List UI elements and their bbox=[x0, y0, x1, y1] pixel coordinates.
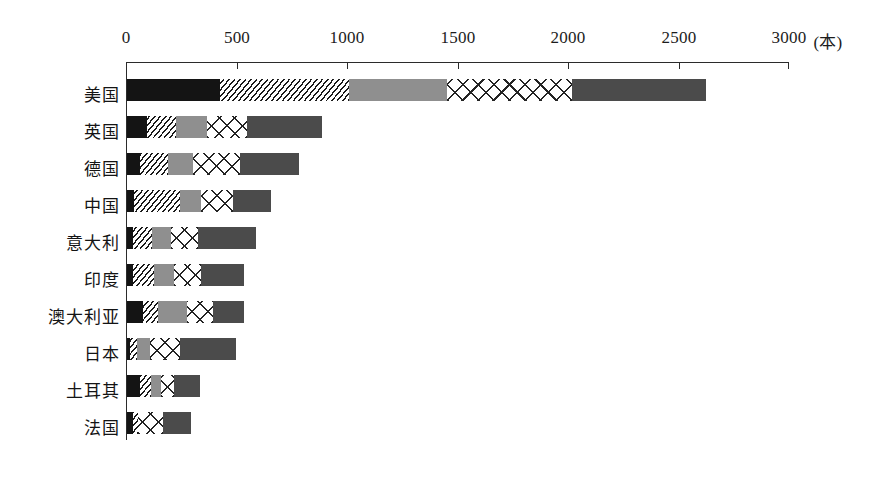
y-category-label-1: 英国 bbox=[2, 118, 120, 143]
y-category-label-9: 法国 bbox=[2, 414, 120, 439]
bar-segment bbox=[198, 227, 256, 249]
bar-segment bbox=[143, 301, 159, 323]
bar-segment bbox=[447, 79, 572, 101]
y-category-label-3: 中国 bbox=[2, 192, 120, 217]
bar-segment bbox=[201, 190, 233, 212]
y-category-label-5: 印度 bbox=[2, 266, 120, 291]
bar-segment bbox=[127, 190, 134, 212]
bar-row bbox=[127, 153, 299, 175]
bar-segment bbox=[127, 79, 220, 101]
bar-segment bbox=[207, 116, 246, 138]
x-tick-label-3000: 3000 bbox=[772, 28, 807, 48]
bar-segment bbox=[220, 79, 349, 101]
bar-segment bbox=[127, 301, 143, 323]
x-tick-label-1000: 1000 bbox=[330, 28, 365, 48]
bar-segment bbox=[572, 79, 707, 101]
bar-segment bbox=[176, 116, 207, 138]
stacked-bar-chart: 0 500 1000 1500 2000 2500 3000 (本) 美国 英国… bbox=[0, 0, 874, 480]
bar-segment bbox=[137, 338, 150, 360]
bar-segment bbox=[154, 264, 174, 286]
x-tick-label-0: 0 bbox=[122, 28, 131, 48]
bar-segment bbox=[127, 153, 140, 175]
bar-segment bbox=[171, 227, 198, 249]
bar-segment bbox=[151, 375, 160, 397]
bar-segment bbox=[187, 301, 213, 323]
x-tick-label-1500: 1500 bbox=[441, 28, 476, 48]
y-category-label-6: 澳大利亚 bbox=[2, 303, 120, 328]
bar-segment bbox=[247, 116, 322, 138]
x-axis-unit-label: (本) bbox=[813, 28, 842, 53]
bar-segment bbox=[161, 375, 174, 397]
bar-segment bbox=[349, 79, 447, 101]
bar-segment bbox=[213, 301, 243, 323]
bar-segment bbox=[138, 412, 163, 434]
y-category-label-0: 美国 bbox=[2, 81, 120, 106]
bar-row bbox=[127, 338, 236, 360]
bar-segment bbox=[240, 153, 298, 175]
y-category-label-4: 意大利 bbox=[2, 229, 120, 254]
y-category-label-7: 日本 bbox=[2, 340, 120, 365]
x-tick-label-500: 500 bbox=[224, 28, 250, 48]
bar-segment bbox=[233, 190, 270, 212]
bar-row bbox=[127, 116, 322, 138]
bar-segment bbox=[168, 153, 193, 175]
bar-segment bbox=[140, 375, 151, 397]
bar-row bbox=[127, 79, 706, 101]
bar-segment bbox=[150, 338, 180, 360]
bar-row bbox=[127, 227, 256, 249]
bar-row bbox=[127, 264, 244, 286]
bar-segment bbox=[193, 153, 241, 175]
bar-segment bbox=[152, 227, 171, 249]
bar-segment bbox=[133, 227, 152, 249]
x-tick-label-2000: 2000 bbox=[551, 28, 586, 48]
bar-segment bbox=[147, 116, 176, 138]
bar-row bbox=[127, 375, 200, 397]
bars-layer bbox=[127, 62, 874, 440]
bar-segment bbox=[140, 153, 168, 175]
bar-row bbox=[127, 190, 271, 212]
bar-row bbox=[127, 301, 244, 323]
bar-segment bbox=[174, 264, 202, 286]
bar-segment bbox=[130, 338, 137, 360]
bar-segment bbox=[180, 190, 201, 212]
y-category-label-8: 土耳其 bbox=[2, 377, 120, 402]
bar-segment bbox=[201, 264, 244, 286]
bar-segment bbox=[174, 375, 200, 397]
bar-segment bbox=[134, 190, 180, 212]
y-category-label-2: 德国 bbox=[2, 155, 120, 180]
bar-row bbox=[127, 412, 191, 434]
y-axis-category-labels: 美国 英国 德国 中国 意大利 印度 澳大利亚 日本 土耳其 法国 bbox=[0, 62, 120, 440]
bar-segment bbox=[127, 375, 140, 397]
bar-segment bbox=[180, 338, 236, 360]
x-tick-label-2500: 2500 bbox=[662, 28, 697, 48]
bar-segment bbox=[163, 412, 190, 434]
x-axis-tick-labels: 0 500 1000 1500 2000 2500 3000 (本) bbox=[0, 28, 874, 54]
bar-segment bbox=[127, 116, 147, 138]
bar-segment bbox=[158, 301, 187, 323]
bar-segment bbox=[133, 264, 154, 286]
